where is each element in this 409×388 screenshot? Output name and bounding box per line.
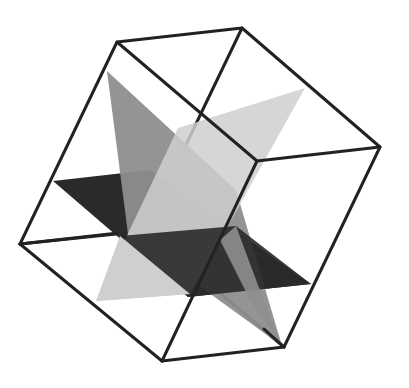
cube-planes-diagram <box>0 0 409 388</box>
